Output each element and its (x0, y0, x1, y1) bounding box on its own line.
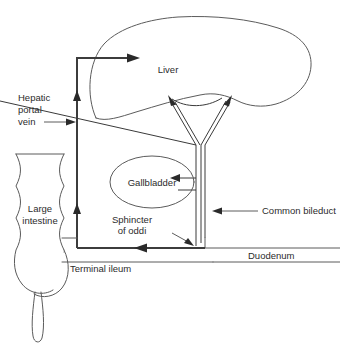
duodenum-label: Duodenum (248, 250, 295, 261)
hepatic-portal-vein-leader (44, 119, 76, 126)
portal-vein-arrow-liver-icon (127, 54, 140, 63)
common-bileduct-leader (212, 208, 258, 215)
hepatic-portal-vein-label-line1: Hepatic (18, 92, 50, 103)
large-intestine-label-line1: Large (28, 203, 52, 214)
portal-vein-arrow-up-lower-icon (73, 203, 81, 214)
anatomy-diagram: Liver (0, 0, 340, 353)
bileduct-arrow-icon (212, 208, 222, 215)
gallbladder-label: Gallbladder (128, 177, 177, 188)
sphincter-of-oddi-leader (172, 233, 194, 246)
portal-vein-arrow-up-upper-icon (73, 90, 81, 101)
liver-shape (90, 16, 311, 119)
large-intestine-label-line2: intestine (22, 215, 57, 226)
large-intestine-shape (14, 154, 68, 342)
diagram-canvas: Liver (0, 0, 340, 353)
portal-vein-leader-arrow-icon (66, 119, 76, 126)
common-bileduct-label: Common bileduct (262, 205, 336, 216)
terminal-ileum-label: Terminal ileum (70, 263, 131, 274)
sphincter-of-oddi-label-line2: of oddi (118, 225, 147, 236)
common-bileduct-shape (196, 145, 205, 246)
terminal-ileum-arrow-icon (134, 244, 147, 253)
hepatic-portal-vein-label-line3: vein (18, 116, 35, 127)
liver-label: Liver (158, 64, 179, 75)
hepatic-portal-vein-label-line2: portal (18, 104, 42, 115)
sphincter-of-oddi-label-line1: Sphincter (112, 214, 152, 225)
sphincter-arrow-icon (184, 238, 194, 246)
